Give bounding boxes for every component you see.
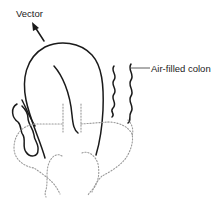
dotted-outline-right <box>92 122 133 192</box>
vector-arrow-icon <box>32 22 44 41</box>
vector-label: Vector <box>16 8 43 19</box>
air-filled-colon-inner <box>112 66 115 117</box>
inner-fold <box>54 66 78 133</box>
dotted-outline-right-lobe <box>82 152 99 196</box>
diagram-canvas <box>0 0 218 207</box>
air-filled-colon-right <box>128 64 132 123</box>
dotted-outline-left-lobe <box>45 155 62 197</box>
air-filled-colon-label: Air-filled colon <box>151 63 211 74</box>
colon-left <box>13 104 39 156</box>
